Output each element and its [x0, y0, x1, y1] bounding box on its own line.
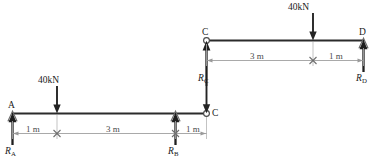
reaction-label-RC-upper: RC — [198, 74, 208, 84]
reaction-label-RC-upper-base: R — [198, 73, 204, 83]
lower-load-arrow-40kN — [53, 86, 60, 114]
dim-label-upper-3m: 3 m — [250, 52, 264, 61]
reaction-label-RD-base: R — [356, 73, 362, 83]
reaction-label-RD-sub: D — [362, 77, 367, 84]
reaction-label-RA: RA — [5, 147, 16, 157]
dim-label-upper-1m: 1 m — [329, 52, 343, 61]
dim-label-lower-1m-last: 1 m — [186, 125, 200, 134]
reaction-label-RB-sub: B — [174, 150, 179, 157]
node-label-D: D — [359, 28, 366, 38]
reaction-label-RA-base: R — [5, 146, 11, 156]
upper-load-label: 40kN — [288, 3, 309, 13]
dim-arrow-lower-left — [13, 132, 19, 136]
dim-arrow-upper-right — [358, 59, 364, 63]
node-label-C-upper: C — [202, 28, 208, 38]
upper-load-arrow-40kN — [309, 13, 316, 41]
reaction-label-RB-base: R — [168, 146, 174, 156]
dim-arrow-lower-right — [201, 132, 207, 136]
dim-label-lower-1m-first: 1 m — [26, 125, 40, 134]
node-label-C-lower: C — [212, 109, 218, 119]
node-label-A: A — [8, 101, 15, 111]
dim-arrow-upper-left — [207, 59, 213, 63]
beam-diagram-figure: 40kN C D 3 m 1 m RC RD 40kN A C 1 m 3 m … — [0, 0, 379, 165]
reaction-label-RA-sub: A — [11, 150, 16, 157]
dim-label-lower-3m: 3 m — [106, 125, 120, 134]
reaction-arrow-RC-lower — [203, 86, 210, 113]
lower-load-label: 40kN — [38, 76, 59, 86]
reaction-label-RB: RB — [168, 147, 178, 157]
reaction-label-RC-upper-sub: C — [204, 77, 209, 84]
reaction-label-RD: RD — [356, 74, 367, 84]
